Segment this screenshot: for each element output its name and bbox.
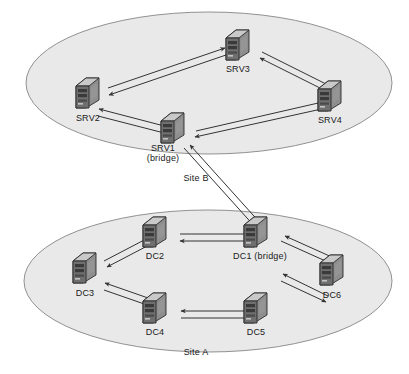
node-label-srv1: SRV1 (bridge) [147, 143, 180, 163]
node-label-dc3: DC3 [76, 288, 95, 298]
site-label-site-b: Site B [183, 173, 208, 183]
node-label-srv2: SRV2 [76, 113, 100, 123]
node-label-srv1-line1: SRV1 [147, 143, 180, 153]
node-label-srv1-line2: (bridge) [147, 153, 180, 163]
node-label-srv3: SRV3 [226, 64, 250, 74]
node-label-dc4: DC4 [146, 327, 165, 337]
network-topology-diagram [0, 0, 409, 374]
node-label-dc5: DC5 [247, 327, 266, 337]
diagram-canvas: SRV3 SRV2 SRV4 SRV1 (bridge) DC1 (bridge… [0, 0, 409, 374]
site-label-site-a: Site A [184, 347, 209, 357]
node-label-dc2: DC2 [146, 251, 165, 261]
node-label-dc6: DC6 [323, 290, 342, 300]
node-label-srv4: SRV4 [318, 115, 342, 125]
node-label-dc1: DC1 (bridge) [233, 251, 287, 261]
